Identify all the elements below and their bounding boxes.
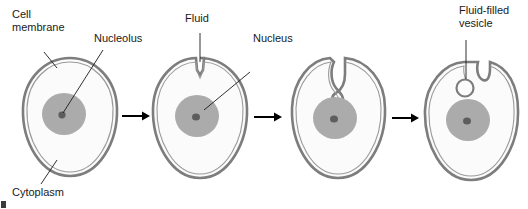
pinocytosis-diagram: Cell membrane Nucleolus Cytoplasm Fluid … <box>0 0 528 209</box>
diagram-canvas: Cell membrane Nucleolus Cytoplasm Fluid … <box>0 0 528 209</box>
label-fluid-filled-vesicle-line1: Fluid-filled <box>459 4 509 16</box>
nucleolus-1 <box>58 112 65 119</box>
arrow-2-head <box>274 113 282 122</box>
nucleolus-3 <box>330 115 338 122</box>
label-nucleolus: Nucleolus <box>94 32 143 44</box>
label-nucleus: Nucleus <box>253 32 293 44</box>
nucleolus-2 <box>192 113 200 120</box>
arrow-3 <box>392 114 419 123</box>
fluid-filled-vesicle <box>457 80 474 97</box>
label-cytoplasm: Cytoplasm <box>12 186 64 198</box>
arrow-3-head <box>411 114 419 123</box>
label-cell-membrane-line2: membrane <box>12 21 65 33</box>
arrow-1-head <box>142 112 150 121</box>
cell-stage-4 <box>425 62 518 180</box>
corner-mark <box>1 201 6 208</box>
cell-stage-3 <box>292 58 385 178</box>
arrow-2 <box>254 113 282 122</box>
label-cell-membrane-line1: Cell <box>12 8 31 20</box>
label-fluid-filled-vesicle-line2: vesicle <box>459 17 493 29</box>
label-fluid: Fluid <box>185 12 209 24</box>
nucleolus-4 <box>463 117 471 124</box>
cell-stage-1 <box>23 58 117 176</box>
arrow-1 <box>122 112 150 121</box>
cell-stage-2 <box>153 58 247 178</box>
